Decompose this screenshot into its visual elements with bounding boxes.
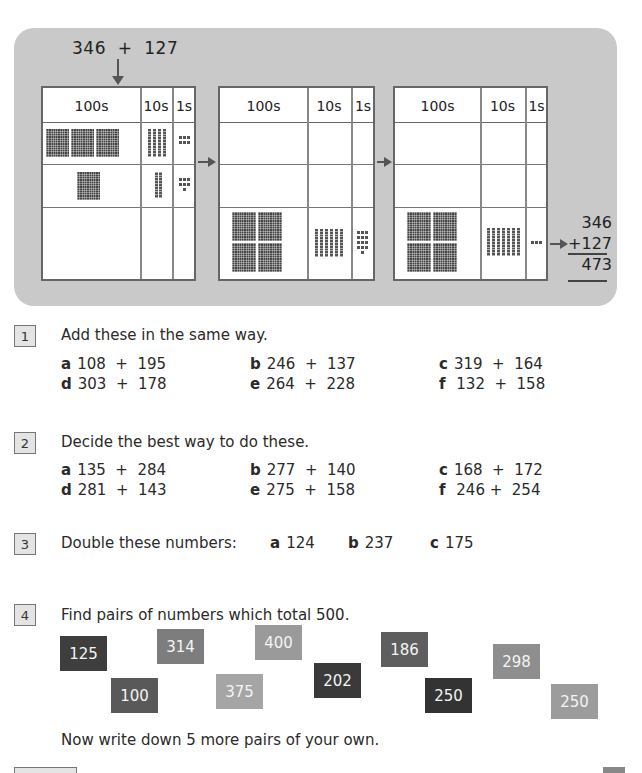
ten-rod-icon [153,129,156,157]
ten-rod-icon [340,229,343,257]
down-arrow-icon [117,59,119,81]
header-tens: 10s [307,88,351,123]
ten-rod-icon [163,129,166,157]
number-card[interactable]: 202 [314,663,361,698]
number-card[interactable]: 314 [157,629,204,664]
question-1-prompt: Add these in the same way. [61,326,268,344]
q3-item-b: b237 [348,534,393,552]
ten-rod-icon [159,172,162,198]
answer-line [568,280,607,282]
sum-result: 473 [566,255,612,274]
hundred-block-icon [433,243,457,272]
question-4-prompt: Find pairs of numbers which total 500. [61,606,349,624]
question-2-prompt: Decide the best way to do these. [61,433,309,451]
ten-rod-icon [315,229,318,257]
q2-item-a: a135 + 284 [61,461,166,479]
number-card[interactable]: 375 [216,674,263,709]
q2-item-f: f 246 + 254 [439,481,540,499]
sum-top-number: 346 [566,213,612,232]
place-value-table-start: 100s 10s 1s [41,86,196,281]
ten-rod-icon [507,228,510,256]
number-card[interactable]: 250 [425,678,472,713]
example-expression: 346 + 127 [72,38,178,58]
header-ones: 1s [172,88,196,123]
header-hundreds: 100s [43,88,140,123]
ten-rod-icon [492,228,495,256]
ten-rod-icon [487,228,490,256]
number-card[interactable]: 298 [493,644,540,679]
hundred-block-icon [46,129,69,157]
ten-rod-icon [512,228,515,256]
q1-item-d: d303 + 178 [61,375,167,393]
ten-rod-icon [155,172,158,198]
ten-rod-icon [148,129,151,157]
number-card[interactable]: 186 [381,632,428,667]
hundred-block-icon [407,212,431,241]
header-ones: 1s [525,88,548,123]
number-card[interactable]: 400 [255,625,302,660]
ten-rod-icon [517,228,520,256]
place-value-table-combined: 100s 10s 1s [218,86,375,281]
hundred-block-icon [232,212,256,241]
right-arrow-icon [550,243,566,245]
header-tens: 10s [140,88,172,123]
number-card[interactable]: 100 [111,678,158,713]
hundred-block-icon [258,243,282,272]
page-footer-mark [603,767,625,773]
hundred-block-icon [433,212,457,241]
hundred-block-icon [96,129,119,157]
header-hundreds: 100s [220,88,307,123]
q2-item-e: e275 + 158 [250,481,355,499]
q3-item-a: a124 [270,534,315,552]
header-tens: 10s [480,88,525,123]
question-number-2: 2 [14,432,36,454]
q2-item-d: d281 + 143 [61,481,167,499]
question-number-4: 4 [14,604,36,626]
number-card[interactable]: 125 [60,636,107,671]
page-footer-box [14,767,77,773]
question-number-1: 1 [14,325,36,347]
hundred-block-icon [71,129,94,157]
q2-item-c: c168 + 172 [439,461,543,479]
q3-item-c: c175 [430,534,474,552]
ten-rod-icon [330,229,333,257]
right-arrow-icon [198,161,214,163]
hundred-block-icon [258,212,282,241]
ten-rod-icon [325,229,328,257]
ten-rod-icon [158,129,161,157]
header-hundreds: 100s [395,88,480,123]
ten-rod-icon [335,229,338,257]
number-card[interactable]: 250 [551,684,598,719]
hundred-block-icon [407,243,431,272]
right-arrow-icon [377,161,390,163]
header-ones: 1s [351,88,375,123]
hundred-block-icon [232,243,256,272]
question-number-3: 3 [14,533,36,555]
q1-item-e: e264 + 228 [250,375,355,393]
q2-item-b: b277 + 140 [250,461,356,479]
question-3-prompt: Double these numbers: [61,534,237,552]
q1-item-c: c319 + 164 [439,355,543,373]
ten-rod-icon [502,228,505,256]
ten-rod-icon [320,229,323,257]
ten-rod-icon [497,228,500,256]
q1-item-a: a108 + 195 [61,355,166,373]
place-value-table-exchanged: 100s 10s 1s [393,86,548,281]
q1-item-b: b246 + 137 [250,355,356,373]
sum-addend: +127 [566,234,612,253]
hundred-block-icon [77,172,100,200]
q1-item-f: f 132 + 158 [439,375,545,393]
question-4-followup: Now write down 5 more pairs of your own. [61,731,379,749]
